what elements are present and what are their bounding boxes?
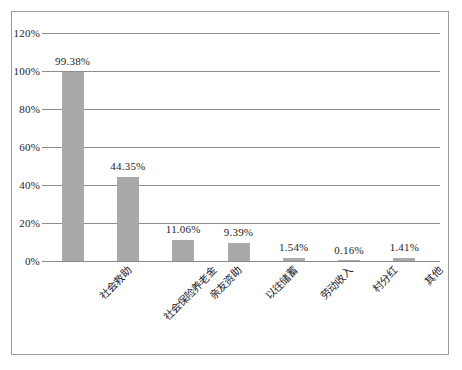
bar[interactable] bbox=[283, 258, 305, 261]
bar-value-label: 0.16% bbox=[334, 245, 363, 256]
y-tick-mark bbox=[42, 223, 53, 224]
y-tick-mark bbox=[42, 33, 53, 34]
bar[interactable] bbox=[393, 258, 415, 261]
x-axis-category-label: 社会救助 bbox=[97, 265, 133, 301]
bar[interactable] bbox=[62, 72, 84, 261]
y-axis-tick-label: 20% bbox=[19, 218, 40, 229]
gridline-60pct bbox=[53, 147, 440, 148]
y-axis-tick-label: 120% bbox=[14, 28, 40, 39]
bar-value-label: 11.06% bbox=[166, 224, 201, 235]
x-axis-category-label: 以往储蓄 bbox=[263, 265, 299, 301]
bar[interactable] bbox=[172, 240, 194, 261]
bar-value-label: 44.35% bbox=[110, 161, 145, 172]
bar-value-label: 9.39% bbox=[224, 227, 253, 238]
bar[interactable] bbox=[228, 243, 250, 261]
x-axis-category-label: 劳动收入 bbox=[318, 265, 354, 301]
gridline-0pct bbox=[53, 261, 440, 262]
y-axis-tick-label: 80% bbox=[19, 104, 40, 115]
gridline-80pct bbox=[53, 109, 440, 110]
chart-figure: 0%20%40%60%80%100%120% 99.38%44.35%11.06… bbox=[11, 11, 449, 355]
y-tick-mark bbox=[42, 185, 53, 186]
bar-value-label: 99.38% bbox=[55, 56, 90, 67]
bar-value-label: 1.41% bbox=[390, 242, 419, 253]
y-tick-mark bbox=[42, 109, 53, 110]
y-tick-mark bbox=[42, 147, 53, 148]
y-tick-mark bbox=[42, 261, 53, 262]
y-axis-tick-label: 0% bbox=[25, 256, 40, 267]
gridline-20pct bbox=[53, 223, 440, 224]
plot-area: 0%20%40%60%80%100%120% 99.38%44.35%11.06… bbox=[53, 33, 440, 261]
y-tick-mark bbox=[42, 71, 53, 72]
category-labels-layer: 社会救助社会保险养老金亲友资助以往储蓄劳动收入村分红其他 bbox=[53, 265, 440, 355]
bar-value-label: 1.54% bbox=[279, 242, 308, 253]
y-axis-tick-label: 60% bbox=[19, 142, 40, 153]
gridline-120pct bbox=[53, 33, 440, 34]
x-axis-category-label: 其他 bbox=[423, 265, 445, 287]
y-axis-tick-label: 100% bbox=[14, 66, 40, 77]
y-axis-tick-label: 40% bbox=[19, 180, 40, 191]
gridline-100pct bbox=[53, 71, 440, 72]
gridline-40pct bbox=[53, 185, 440, 186]
bar[interactable] bbox=[338, 260, 360, 261]
bar[interactable] bbox=[117, 177, 139, 261]
x-axis-category-label: 村分红 bbox=[371, 265, 400, 294]
